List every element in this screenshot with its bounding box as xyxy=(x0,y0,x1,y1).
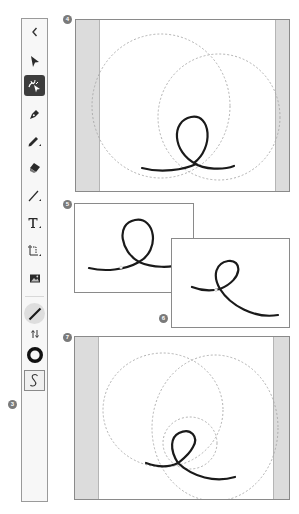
type-tool[interactable] xyxy=(22,212,47,234)
curve-s-icon xyxy=(28,373,41,388)
pen-tool[interactable] xyxy=(22,103,47,125)
collapse-toolbar-button[interactable] xyxy=(22,21,47,43)
type-icon xyxy=(27,216,42,230)
arrow-pointer-icon xyxy=(29,55,41,68)
callout-badge-5: 5 xyxy=(63,200,72,209)
transform-icon xyxy=(27,244,42,258)
eraser-tool[interactable] xyxy=(22,157,47,179)
curvature-tool[interactable] xyxy=(24,370,45,391)
pencil-tool[interactable] xyxy=(22,130,47,152)
transform-tool[interactable] xyxy=(22,240,47,262)
swap-arrows-icon xyxy=(30,329,40,339)
artwork-canvas xyxy=(75,337,290,500)
image-tool[interactable] xyxy=(22,267,47,289)
illustration-panel-4 xyxy=(75,19,290,192)
pencil-icon xyxy=(27,134,42,148)
callout-badge-4: 4 xyxy=(63,15,72,24)
pen-icon xyxy=(28,108,41,121)
artwork-canvas xyxy=(172,239,290,328)
chevron-left-icon xyxy=(30,26,40,38)
line-icon xyxy=(27,189,42,203)
callout-badge-3: 3 xyxy=(8,400,17,409)
shaper-tool[interactable] xyxy=(24,75,45,96)
swap-colors-button[interactable] xyxy=(22,326,47,342)
stroke-color-swatch[interactable] xyxy=(24,303,45,324)
image-icon xyxy=(29,273,41,284)
shaper-icon xyxy=(27,79,42,93)
illustration-panel-7 xyxy=(74,336,290,500)
toolbar-divider xyxy=(25,296,44,297)
illustration-panel-6 xyxy=(171,238,290,328)
selection-tool[interactable] xyxy=(22,50,47,72)
callout-badge-6: 6 xyxy=(159,314,168,323)
artwork-canvas xyxy=(76,20,290,192)
line-tool[interactable] xyxy=(22,185,47,207)
tools-panel xyxy=(21,18,48,502)
stroke-swatch-icon xyxy=(27,306,43,322)
fill-ring-icon xyxy=(26,346,44,364)
eraser-icon xyxy=(28,162,42,174)
callout-badge-7: 7 xyxy=(63,333,72,342)
fill-color-swatch[interactable] xyxy=(22,344,47,366)
